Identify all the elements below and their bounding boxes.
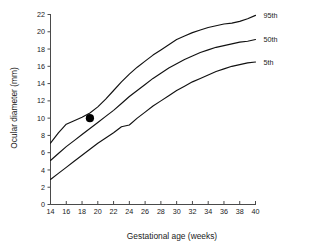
x-tick-label: 22 [110, 207, 118, 216]
y-tick-label: 4 [41, 166, 45, 175]
y-tick-label: 14 [37, 79, 45, 88]
x-tick-label: 38 [236, 207, 244, 216]
y-tick-label: 20 [37, 27, 45, 36]
x-tick-label: 30 [173, 207, 181, 216]
x-tick-label: 34 [204, 207, 212, 216]
series-label-5th: 5th [264, 58, 274, 67]
y-axis: 0246810121416182022 [37, 10, 51, 209]
annotations [86, 114, 94, 122]
percentile-curve-50th [51, 40, 256, 161]
y-tick-label: 2 [41, 183, 45, 192]
y-tick-label: 16 [37, 62, 45, 71]
y-tick-label: 18 [37, 45, 45, 54]
y-tick-label: 0 [41, 200, 45, 209]
x-axis-title: Gestational age (weeks) [127, 231, 218, 241]
y-tick-label: 10 [37, 114, 45, 123]
percentile-curve-95th [51, 15, 256, 143]
y-tick-label: 6 [41, 148, 45, 157]
y-tick-label: 22 [37, 10, 45, 19]
y-tick-label: 12 [37, 96, 45, 105]
percentile-curve-5th [51, 62, 256, 179]
x-tick-label: 18 [78, 207, 86, 216]
x-tick-label: 28 [157, 207, 165, 216]
series-label-50th: 50th [264, 35, 278, 44]
measurement-point [86, 114, 94, 122]
x-axis: 1416182022242628303234363840 [47, 201, 260, 216]
series-labels: 95th50th5th [264, 11, 278, 67]
x-tick-label: 36 [220, 207, 228, 216]
x-tick-label: 32 [188, 207, 196, 216]
x-tick-label: 20 [94, 207, 102, 216]
x-tick-label: 40 [252, 207, 260, 216]
y-axis-title: Ocular diameter (mm) [9, 67, 19, 149]
x-tick-label: 24 [125, 207, 133, 216]
chart-canvas: 0246810121416182022 14161820222426283032… [0, 0, 313, 248]
y-tick-label: 8 [41, 131, 45, 140]
x-tick-label: 14 [47, 207, 55, 216]
ocular-diameter-growth-chart: 0246810121416182022 14161820222426283032… [0, 0, 313, 248]
percentile-curves [51, 15, 256, 179]
x-tick-label: 26 [141, 207, 149, 216]
series-label-95th: 95th [264, 11, 278, 20]
x-tick-label: 16 [62, 207, 70, 216]
